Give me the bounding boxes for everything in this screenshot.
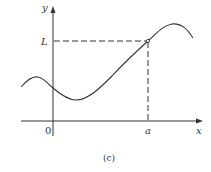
- L-label: L: [40, 36, 48, 47]
- x-axis-label: x: [196, 125, 202, 136]
- x-axis-arrow-icon: [196, 119, 203, 124]
- point-a-L: [146, 39, 149, 42]
- a-label: a: [145, 125, 151, 136]
- y-axis-label: y: [41, 2, 48, 13]
- diagram-canvas: y L 0 a x (c): [0, 0, 211, 172]
- y-axis-arrow-icon: [51, 6, 56, 13]
- figure-caption: (c): [103, 153, 115, 163]
- origin-label: 0: [45, 125, 51, 136]
